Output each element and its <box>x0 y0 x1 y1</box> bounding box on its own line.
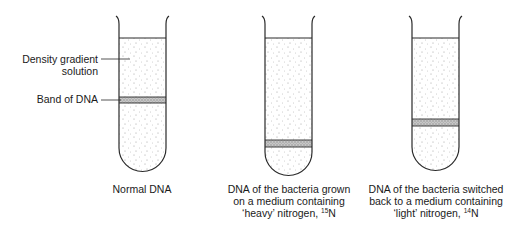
caption-light-nitrogen: DNA of the bacteria switched back to a m… <box>356 183 516 219</box>
density-gradient-label: Density gradient solution <box>4 53 98 77</box>
caption-heavy-nitrogen: DNA of the bacteria grown on a medium co… <box>212 183 366 219</box>
density-gradient-solution <box>412 38 459 178</box>
dna-band <box>412 119 459 126</box>
caption-line: ‘light’ nitrogen, 14N <box>356 207 516 219</box>
caption-line: DNA of the bacteria switched <box>356 183 516 195</box>
caption-line: ‘heavy’ nitrogen, 15N <box>212 207 366 219</box>
band-of-dna-label: Band of DNA <box>4 93 98 105</box>
tube-normal <box>116 16 169 178</box>
caption-line: Normal DNA <box>92 183 192 195</box>
density-gradient-solution <box>265 38 312 178</box>
density-gradient-label-line2: solution <box>4 65 98 77</box>
caption-line: on a medium containing <box>212 195 366 207</box>
dna-band <box>265 140 312 147</box>
isotope-symbol: N <box>471 207 479 219</box>
caption-text: ‘heavy’ nitrogen, <box>242 207 321 219</box>
caption-line: DNA of the bacteria grown <box>212 183 366 195</box>
dna-band <box>119 97 166 103</box>
caption-normal-dna: Normal DNA <box>92 183 192 195</box>
tube-light-nitrogen <box>409 16 462 178</box>
isotope-mass: 14 <box>464 207 471 214</box>
isotope-symbol: N <box>328 207 336 219</box>
tube-heavy-nitrogen <box>262 16 315 178</box>
density-gradient-label-line1: Density gradient <box>4 53 98 65</box>
caption-text: ‘light’ nitrogen, <box>393 207 463 219</box>
caption-line: back to a medium containing <box>356 195 516 207</box>
